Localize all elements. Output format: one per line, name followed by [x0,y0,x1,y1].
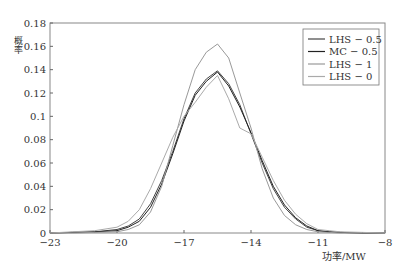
series-line-mc-0-5 [50,72,385,233]
y-tick-label: 0.1 [30,111,46,122]
y-axis-label: 概率 [13,35,23,55]
y-tick-label: 0.18 [24,18,46,29]
legend-label: MC − 0.5 [329,46,378,57]
x-tick-label: −17 [173,237,194,248]
y-tick-label: 0.16 [24,41,46,52]
y-tick-label: 0.02 [24,204,46,215]
y-tick-label: 0.14 [24,64,46,75]
x-tick-label: −11 [307,237,328,248]
x-tick-label: −20 [106,237,127,248]
y-tick-label: 0.08 [24,134,46,145]
x-tick-label: −14 [240,237,261,248]
x-axis-label: 功率/MW [322,250,367,262]
y-tick-label: 0.12 [24,88,46,99]
x-tick-label: −23 [39,237,60,248]
legend-label: LHS − 0 [329,71,372,82]
legend-label: LHS − 0.5 [329,34,382,45]
line-chart: 00.020.040.060.080.10.120.140.160.18−23−… [0,0,396,273]
series-line-lhs-0 [50,76,385,234]
series-line-lhs-0-5 [50,71,385,233]
legend-label: LHS − 1 [329,59,372,70]
x-tick-label: −8 [378,237,393,248]
legend: LHS − 0.5MC − 0.5LHS − 1LHS − 0 [303,29,382,85]
y-tick-label: 0.04 [24,181,46,192]
y-tick-label: 0.06 [24,158,46,169]
